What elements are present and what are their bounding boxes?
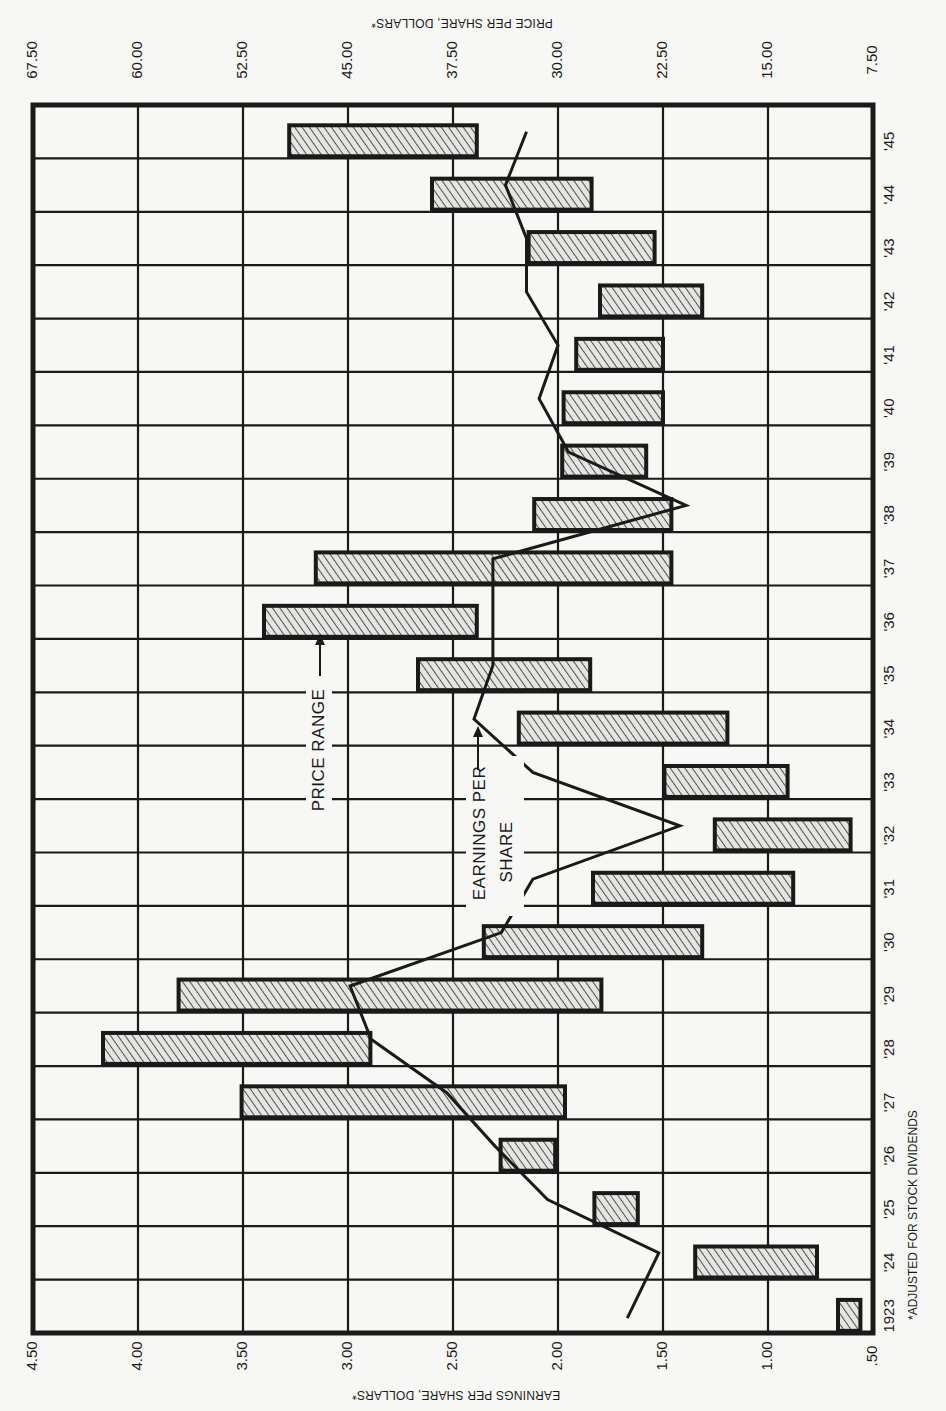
grid-lines [33, 105, 873, 1333]
price-range-bar [501, 1140, 556, 1171]
price-axis-title: PRICE PER SHARE, DOLLARS* [371, 16, 553, 30]
year-label: '40 [880, 398, 897, 418]
price-range-bar [715, 819, 851, 850]
year-label: '24 [880, 1253, 897, 1273]
year-label: '37 [880, 559, 897, 579]
price-range-bar [664, 766, 787, 797]
year-label: '29 [880, 986, 897, 1006]
price-range-bar [264, 606, 477, 637]
price-tick-label: 30.00 [548, 41, 565, 79]
year-label: '26 [880, 1146, 897, 1166]
price-range-bar [593, 873, 793, 904]
price-range-bar [289, 125, 477, 156]
price-range-bar [519, 713, 728, 744]
year-label: '35 [880, 665, 897, 685]
year-label: '43 [880, 238, 897, 258]
year-label: '41 [880, 345, 897, 365]
price-range-annotation: PRICE RANGE [306, 634, 332, 816]
year-label: '32 [880, 826, 897, 846]
price-range-bars [103, 125, 860, 1331]
year-label: '31 [880, 879, 897, 899]
price-range-bar [103, 1033, 370, 1064]
price-range-bar [179, 980, 602, 1011]
price-tick-label: 37.50 [443, 41, 460, 79]
price-range-bar [484, 926, 702, 957]
year-label: '45 [880, 132, 897, 152]
eps-tick-label: 2.50 [443, 1341, 460, 1370]
footnote: *ADJUSTED FOR STOCK DIVIDENDS [906, 1110, 920, 1320]
price-range-label: PRICE RANGE [309, 689, 328, 812]
year-label: '39 [880, 452, 897, 472]
year-label: '30 [880, 932, 897, 952]
eps-tick-label: 4.50 [23, 1341, 40, 1370]
eps-tick-label: .50 [863, 1346, 880, 1367]
price-tick-label: 67.50 [23, 41, 40, 79]
year-label: '27 [880, 1093, 897, 1113]
price-range-bar [418, 659, 590, 690]
eps-axis-title: EARNINGS PER SHARE, DOLLARS* [352, 1388, 560, 1402]
eps-axis-ticks: 4.504.003.503.002.502.001.501.00.50 [23, 1341, 880, 1370]
price-tick-label: 52.50 [233, 41, 250, 79]
price-range-bar [594, 1193, 637, 1224]
eps-label-line2: SHARE [497, 821, 516, 882]
year-label: 1923 [880, 1299, 897, 1332]
price-tick-label: 15.00 [758, 41, 775, 79]
price-range-bar [562, 446, 646, 477]
year-label: '42 [880, 292, 897, 312]
year-label: '33 [880, 772, 897, 792]
year-axis-labels: 1923'24'25'26'27'28'29'30'31'32'33'34'35… [880, 132, 897, 1333]
price-tick-label: 60.00 [128, 41, 145, 79]
eps-tick-label: 4.00 [128, 1341, 145, 1370]
eps-tick-label: 1.50 [653, 1341, 670, 1370]
year-label: '44 [880, 185, 897, 205]
eps-tick-label: 1.00 [758, 1341, 775, 1370]
year-label: '28 [880, 1039, 897, 1059]
price-range-bar [695, 1247, 817, 1278]
price-tick-label: 22.50 [653, 41, 670, 79]
price-range-bar [529, 232, 655, 263]
price-tick-label: 45.00 [338, 41, 355, 79]
price-range-bar [576, 339, 663, 370]
year-label: '25 [880, 1199, 897, 1219]
year-label: '38 [880, 505, 897, 525]
price-range-bar [242, 1086, 565, 1117]
eps-label-line1: EARNINGS PER [470, 766, 489, 900]
year-label: '36 [880, 612, 897, 632]
eps-tick-label: 3.00 [338, 1341, 355, 1370]
price-axis-ticks: 67.5060.0052.5045.0037.5030.0022.5015.00… [23, 41, 880, 79]
stock-price-earnings-chart: PRICE PER SHARE, DOLLARS* EARNINGS PER S… [0, 0, 946, 1411]
price-range-bar [838, 1300, 860, 1331]
price-range-bar [564, 392, 663, 423]
eps-tick-label: 3.50 [233, 1341, 250, 1370]
year-label: '34 [880, 719, 897, 739]
price-tick-label: 7.50 [863, 45, 880, 74]
eps-tick-label: 2.00 [548, 1341, 565, 1370]
price-range-bar [600, 285, 702, 316]
